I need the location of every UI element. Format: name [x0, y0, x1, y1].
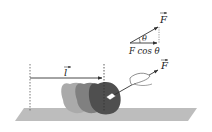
angle-arc	[139, 38, 140, 43]
hand	[130, 73, 152, 85]
work-force-diagram: l F θ F F cos θ	[0, 0, 212, 132]
vector-decomposition-inset: θ F F cos θ	[128, 13, 168, 56]
force-main-label: F	[160, 60, 169, 71]
displacement-label: l	[64, 67, 67, 78]
component-label: F cos θ	[128, 46, 160, 56]
force-top-label: F	[159, 14, 168, 25]
angle-label: θ	[142, 34, 147, 43]
